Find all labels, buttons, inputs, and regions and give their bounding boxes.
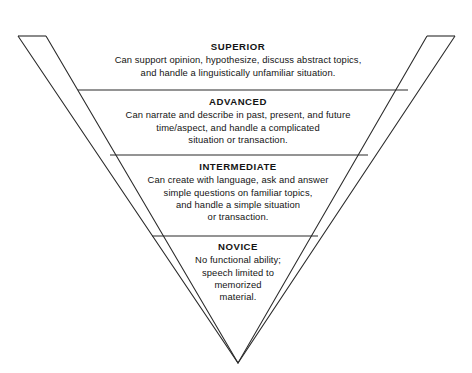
tier-advanced: ADVANCED Can narrate and describe in pas… <box>80 96 396 146</box>
tier-advanced-line-1: Can narrate and describe in past, presen… <box>80 109 396 121</box>
tier-novice: NOVICE No functional ability; speech lim… <box>152 241 324 304</box>
tier-superior: SUPERIOR Can support opinion, hypothesiz… <box>53 41 423 79</box>
tier-novice-line-2: speech limited to <box>152 267 324 279</box>
tier-novice-title: NOVICE <box>152 241 324 254</box>
proficiency-pyramid-diagram: SUPERIOR Can support opinion, hypothesiz… <box>0 0 472 373</box>
tier-intermediate-line-3: and handle a simple situation <box>110 199 366 211</box>
tier-advanced-title: ADVANCED <box>80 96 396 109</box>
tier-intermediate-description: Can create with language, ask and answer… <box>110 174 366 224</box>
tier-novice-line-4: material. <box>152 291 324 303</box>
tier-superior-description: Can support opinion, hypothesize, discus… <box>53 54 423 79</box>
tier-advanced-line-2: time/aspect, and handle a complicated <box>80 122 396 134</box>
tier-intermediate: INTERMEDIATE Can create with language, a… <box>110 161 366 224</box>
tier-novice-line-3: memorized <box>152 279 324 291</box>
tier-intermediate-line-1: Can create with language, ask and answer <box>110 174 366 186</box>
tier-advanced-line-3: situation or transaction. <box>80 134 396 146</box>
tier-intermediate-title: INTERMEDIATE <box>110 161 366 174</box>
tier-novice-line-1: No functional ability; <box>152 254 324 266</box>
tier-intermediate-line-4: or transaction. <box>110 211 366 223</box>
tier-superior-title: SUPERIOR <box>53 41 423 54</box>
tier-advanced-description: Can narrate and describe in past, presen… <box>80 109 396 146</box>
tier-superior-line-2: and handle a linguistically unfamiliar s… <box>53 67 423 79</box>
tier-superior-line-1: Can support opinion, hypothesize, discus… <box>53 54 423 66</box>
tier-novice-description: No functional ability; speech limited to… <box>152 254 324 304</box>
tier-intermediate-line-2: simple questions on familiar topics, <box>110 187 366 199</box>
